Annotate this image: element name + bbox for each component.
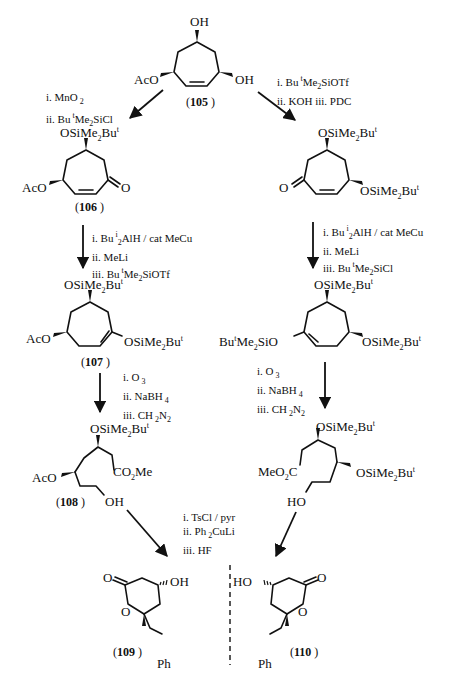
label-108-otbs: OSiMe2But: [90, 418, 149, 442]
label-105-aco: AcO: [134, 72, 159, 87]
compound-number-108: (108 ): [56, 495, 85, 510]
structure-110: [270, 577, 318, 634]
label-ester-meo2c: MeO2C: [258, 464, 297, 485]
label-106-aco: AcO: [22, 180, 47, 195]
structure-107: [67, 302, 122, 346]
structure-105: [174, 42, 219, 86]
label-110-ring-o: O: [298, 604, 307, 619]
compound-number-110: (110 ): [290, 645, 318, 660]
label-enone-otbs-right: OSiMe2But: [360, 180, 419, 204]
compound-number-105: (105 ): [186, 95, 215, 110]
label-ester-otbs-right: OSiMe2But: [356, 462, 415, 486]
structure-enol-ether: [294, 302, 349, 346]
conditions-right-3: i. O 3 ii. NaBH 4 iii. CH 2N2: [257, 364, 305, 422]
conditions-right-2: i. Bu i2AlH / cat MeCu ii. MeLi iii. Bu …: [323, 222, 423, 280]
label-ester-ho: HO: [287, 494, 306, 509]
conditions-final: i. TsCl / pyr ii. Ph 2CuLi iii. HF: [183, 510, 235, 557]
arrow-105-to-106: [130, 90, 163, 118]
structure-106: [63, 150, 120, 194]
label-enone-otbs-top: OSiMe2But: [318, 122, 377, 146]
label-108-ester: CO2Me: [113, 464, 152, 485]
label-108-aco: AcO: [32, 470, 57, 485]
label-106-otbs: OSiMe2But: [60, 122, 119, 146]
label-105-oh-top: OH: [190, 14, 209, 29]
label-106-ketone-o: O: [121, 180, 130, 195]
label-105-oh: OH: [235, 72, 254, 87]
label-109-ring-o: O: [121, 604, 130, 619]
arrow-108-to-109: [127, 510, 167, 556]
label-110-ho: HO: [233, 574, 252, 589]
label-ester-otbs-top: OSiMe2But: [316, 416, 375, 440]
structure-ester-chain: [300, 440, 337, 492]
arrow-ester-to-110: [276, 512, 296, 556]
label-107-aco: AcO: [26, 331, 51, 346]
structure-enone: [292, 150, 349, 194]
label-110-ph: Ph: [258, 656, 272, 671]
label-enol-silyl-ether: ButMe2SiO: [219, 331, 278, 355]
label-enol-otbs-top: OSiMe2But: [314, 274, 373, 298]
label-enone-ketone-o: O: [279, 180, 288, 195]
compound-number-109: (109 ): [113, 645, 142, 660]
label-108-oh: OH: [105, 494, 124, 509]
label-109-carbonyl-o: O: [103, 570, 112, 585]
conditions-right-1: i. Bu tMe2SiOTf ii. KOH iii. PDC: [277, 72, 351, 108]
compound-number-107: (107 ): [81, 355, 110, 370]
structure-108: [75, 447, 114, 495]
compound-number-106: (106 ): [75, 200, 104, 215]
label-109-ph: Ph: [157, 656, 171, 671]
label-110-carbonyl-o: O: [317, 570, 326, 585]
label-107-otbs-top: OSiMe2But: [64, 274, 123, 298]
label-enol-otbs-right: OSiMe2But: [362, 331, 421, 355]
label-109-oh: OH: [170, 574, 189, 589]
label-107-otbs-enol: OSiMe2But: [124, 331, 183, 355]
